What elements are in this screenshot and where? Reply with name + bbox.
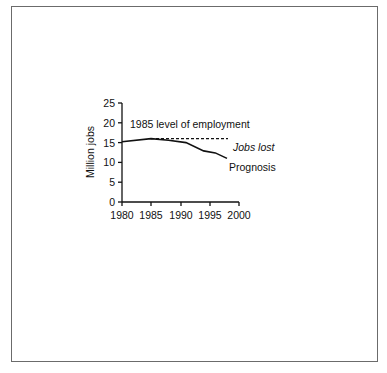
annotation-1985-level: 1985 level of employment <box>130 118 250 130</box>
svg-text:2000: 2000 <box>227 209 251 221</box>
annotation-prognosis: Prognosis <box>229 161 276 173</box>
svg-text:25: 25 <box>103 97 115 109</box>
svg-text:10: 10 <box>103 156 115 168</box>
svg-text:20: 20 <box>103 117 115 129</box>
y-axis-label: Million jobs <box>84 126 96 178</box>
line-chart: 25 20 15 10 5 0 1980 1985 1990 1995 2000… <box>0 0 387 373</box>
svg-text:1985: 1985 <box>139 209 163 221</box>
svg-text:0: 0 <box>109 196 115 208</box>
x-tick-labels: 1980 1985 1990 1995 2000 <box>110 209 251 221</box>
svg-text:5: 5 <box>109 176 115 188</box>
svg-text:15: 15 <box>103 137 115 149</box>
series-prognosis <box>122 139 227 159</box>
svg-text:1995: 1995 <box>198 209 222 221</box>
svg-text:1980: 1980 <box>110 209 134 221</box>
annotation-jobs-lost: Jobs lost <box>232 141 276 153</box>
svg-text:1990: 1990 <box>169 209 193 221</box>
y-axis <box>118 103 122 202</box>
x-axis <box>122 202 239 206</box>
y-tick-labels: 25 20 15 10 5 0 <box>103 97 115 208</box>
